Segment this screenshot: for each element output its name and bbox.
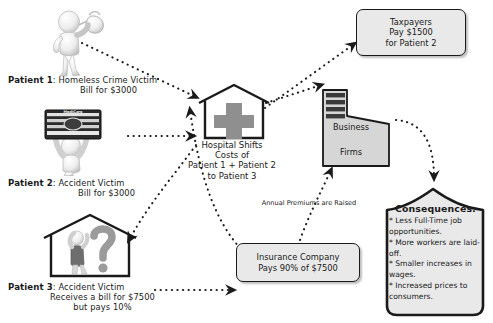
medicare-card-icon: MediCare	[45, 110, 101, 139]
consequence-item-2: * More workers are laid-off.	[389, 238, 482, 260]
consequence-item-4: * Increased prices to consumers.	[389, 281, 482, 303]
consequence-item-1: * Less Full-Time job opportunities.	[389, 216, 482, 238]
insurance-line-1: Insurance Company	[257, 252, 340, 263]
patient-3-caption: Patient 3: Accident Victim Receives a bi…	[8, 282, 183, 312]
insurance-company-box[interactable]: Insurance Company Pays 90% of $7500	[236, 243, 360, 282]
hospital-label: Hospital Shifts Costs of Patient 1 + Pat…	[168, 140, 296, 181]
hospital-line-3: Patient 1 + Patient 2	[168, 160, 296, 170]
taxpayers-line-1: Taxpayers	[386, 17, 437, 28]
medical-cross-icon	[214, 103, 254, 139]
consequences-box[interactable]: Consequences: * Less Full-Time job oppor…	[382, 186, 488, 317]
patient-3-figure	[38, 212, 144, 280]
patient-2-caption: Patient 2: Accident Victim Bill for $300…	[8, 178, 183, 198]
annual-premiums-label: Annual Premiums are Raised	[246, 200, 372, 207]
hospital-line-1: Hospital Shifts	[168, 140, 296, 150]
hospital-icon	[196, 83, 272, 141]
hospital-line-4: to Patient 3	[168, 171, 296, 181]
patient-3-bill: Receives a bill for $7500	[8, 292, 183, 302]
patient-3-desc: : Accident Victim	[53, 282, 125, 292]
patient-1-figure	[36, 6, 112, 78]
patient-1-caption: Patient 1: Homeless Crime Victim Bill fo…	[8, 75, 183, 95]
consequences-title: Consequences:	[389, 202, 482, 215]
hospital-line-2: Costs of	[168, 150, 296, 160]
question-mark-icon	[94, 229, 112, 273]
patient-3-pays: but pays 10%	[8, 302, 183, 312]
patient-2-bill: Bill for $3000	[8, 188, 183, 198]
patient-2-figure: MediCare	[33, 104, 111, 176]
business-firms-line-1: Business	[316, 123, 386, 132]
arrow-business-firms-to-consequences	[396, 120, 434, 178]
patient-1-desc: : Homeless Crime Victim	[53, 75, 157, 85]
patient-2-desc: : Accident Victim	[53, 178, 125, 188]
svg-text:MediCare: MediCare	[63, 110, 83, 114]
consequence-item-3: * Smaller increases in wages.	[389, 259, 482, 281]
patient-2-label: Patient 2	[8, 178, 53, 188]
insurance-line-2: Pays 90% of $7500	[257, 263, 340, 274]
house-outline-icon	[44, 215, 136, 276]
taxpayers-line-3: for Patient 2	[386, 38, 437, 49]
diagram-canvas: Patient 1: Homeless Crime Victim Bill fo…	[0, 0, 493, 323]
patient-3-label: Patient 3	[8, 282, 53, 292]
patient-1-label: Patient 1	[8, 75, 53, 85]
patient-1-bill: Bill for $3000	[8, 85, 183, 95]
taxpayers-line-2: Pay $1500	[386, 27, 437, 38]
business-firms-line-2: Firms	[316, 148, 386, 157]
taxpayers-box[interactable]: Taxpayers Pay $1500 for Patient 2	[356, 9, 466, 56]
